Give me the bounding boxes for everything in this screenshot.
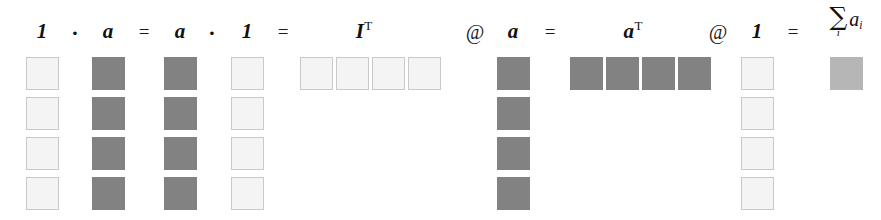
math-label-op3: · (208, 22, 215, 44)
math-label-text: 1 (752, 19, 763, 43)
matrix-cell (164, 137, 197, 170)
math-label-l5: IT (356, 21, 373, 42)
math-label-l1: 1 (37, 21, 48, 42)
matrix-cell (497, 97, 530, 130)
math-label-text: 1 (242, 19, 253, 43)
math-label-text: @ (709, 21, 727, 43)
matrix-cell (497, 137, 530, 170)
transpose-superscript: T (364, 18, 372, 33)
matrix-cell (231, 137, 264, 170)
matrix-cell (642, 57, 675, 90)
matrix-cell (92, 57, 125, 90)
matrix-cell (497, 177, 530, 210)
math-label-text: a (508, 19, 519, 43)
math-label-text: · (208, 20, 215, 45)
matrix-cell (336, 57, 369, 90)
matrix-cell (497, 57, 530, 90)
matrix-cell (92, 177, 125, 210)
math-label-at1: @ (466, 22, 484, 42)
matrix-cell (26, 177, 59, 210)
matrix-operation-figure: 1·a=a·1=IT@a=aT@1=∑iai (0, 0, 881, 220)
math-label-l8: 1 (752, 21, 763, 42)
matrix-cell (606, 57, 639, 90)
matrix-cell (26, 137, 59, 170)
matrix-cell (830, 57, 863, 90)
sigma-subscript: i (837, 27, 840, 38)
math-label-text: = (788, 21, 799, 42)
matrix-cell (231, 57, 264, 90)
matrix-cell (92, 97, 125, 130)
matrix-cell (26, 57, 59, 90)
matrix-cell (408, 57, 441, 90)
math-label-at2: @ (709, 22, 727, 42)
math-label-op1: · (71, 22, 78, 44)
math-label-text: I (356, 19, 364, 43)
math-label-l2: a (103, 21, 114, 42)
matrix-cell (164, 57, 197, 90)
summation-term: ai (849, 9, 862, 29)
math-label-text: @ (466, 21, 484, 43)
matrix-cell (570, 57, 603, 90)
math-label-l4: 1 (242, 21, 253, 42)
math-label-text: = (139, 21, 150, 42)
math-label-op5: = (545, 22, 556, 41)
summation-term-subscript: i (859, 19, 862, 32)
math-label-text: 1 (37, 19, 48, 43)
math-label-text: = (545, 21, 556, 42)
sigma-operator: ∑i (829, 6, 847, 38)
math-label-op4: = (278, 22, 289, 41)
matrix-cell (741, 57, 774, 90)
matrix-cell (92, 137, 125, 170)
math-label-text: a (175, 19, 186, 43)
math-label-l7: aT (624, 21, 643, 42)
matrix-cell (164, 97, 197, 130)
math-label-op6: = (788, 22, 799, 41)
math-label-text: = (278, 21, 289, 42)
sigma-glyph: ∑ (829, 6, 847, 28)
matrix-cell (372, 57, 405, 90)
summation-term-base: a (849, 8, 859, 30)
matrix-cell (231, 97, 264, 130)
math-label-l3: a (175, 21, 186, 42)
math-label-text: a (624, 19, 635, 43)
matrix-cell (741, 137, 774, 170)
summation-label: ∑iai (829, 6, 862, 38)
matrix-cell (231, 177, 264, 210)
matrix-cell (741, 97, 774, 130)
math-label-l6: a (508, 21, 519, 42)
matrix-cell (678, 57, 711, 90)
math-label-op2: = (139, 22, 150, 41)
math-label-text: a (103, 19, 114, 43)
matrix-cell (164, 177, 197, 210)
matrix-cell (26, 97, 59, 130)
matrix-cell (300, 57, 333, 90)
math-label-text: · (71, 20, 78, 45)
matrix-cell (741, 177, 774, 210)
transpose-superscript: T (635, 18, 643, 33)
